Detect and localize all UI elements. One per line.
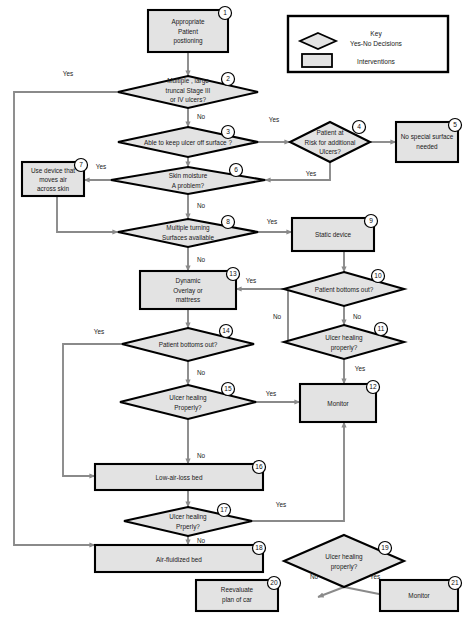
node-20-number: 20 [270,579,278,586]
node-2-multiple-large-truncal-ulcers[interactable]: Multiple , large truncal Stage III or IV… [118,73,258,109]
node-21-monitor[interactable]: Monitor 21 [380,577,462,612]
node-13-line-2: Overlay or [173,287,203,295]
node-1-line-3: postioning [173,37,203,45]
node-7-line-3: across skin [37,185,69,192]
node-16-line-1: Low-air-loss bed [156,474,203,481]
node-20-line-1: Reevaluate [221,586,254,593]
node-4-line-1: Patient at [316,129,343,136]
edge-label-19-no: No [310,573,319,580]
node-5-no-special-surface-needed[interactable]: No special surface needed 5 [396,119,462,163]
node-3-line-1: Able to keep ulcer off surface ? [144,139,232,147]
node-15-line-2: Properly? [174,404,202,412]
node-5-line-2: needed [416,143,438,150]
node-15-number: 15 [224,385,232,392]
node-6-line-2: A problem? [172,182,205,190]
edge-label-17-no: No [197,537,206,544]
node-10-patient-bottoms-out[interactable]: Patient bottoms out? 10 [284,270,404,307]
legend-intervention-label: Interventions [357,58,395,65]
node-2-line-3: or IV ulcers? [170,96,206,103]
node-12-number: 12 [369,383,377,390]
node-11-line-1: Ulcer healing [325,334,363,342]
node-13-line-3: mattress [176,296,201,303]
node-6-number: 6 [234,166,238,173]
node-4-line-2: Risk for additional [305,139,356,146]
node-7-line-2: moves air [39,176,68,183]
node-6-skin-moisture-a-problem[interactable]: Skin moisture A problem? 6 [111,164,265,195]
legend-key: Key Yes-No Decisions Interventions [288,16,448,72]
node-1-number: 1 [223,9,227,16]
node-17-ulcer-healing-properly[interactable]: Ulcer healing Prperly? 17 [124,504,252,537]
node-5-number: 5 [453,121,457,128]
node-20-reevaluate-plan-of-care[interactable]: Reevaluate plan of car 20 [196,577,281,612]
edge-label-11-no: No [273,313,282,320]
node-12-line-1: Monitor [327,400,349,407]
node-9-number: 9 [369,217,373,224]
node-19-line-2: properly? [331,563,358,571]
edge-label-4-yes: Yes [306,170,316,177]
edge-label-15-yes: Yes [266,390,276,397]
node-1-line-1: Appropriate [171,18,204,26]
node-21-line-1: Monitor [408,592,430,599]
legend-intervention-icon [302,54,332,67]
edge-label-10-yes: Yes [246,277,256,284]
node-14-number: 14 [222,327,230,334]
node-1-appropriate-patient-positioning[interactable]: Appropriate Patient postioning 1 [148,7,232,53]
edge-label-14-yes: Yes [94,328,104,335]
node-17-line-2: Prperly? [176,523,200,531]
flowchart-svg: Appropriate Patient postioning 1 Multipl… [0,0,464,622]
legend-decision-label: Yes-No Decisions [350,40,402,47]
node-18-air-fluidized-bed[interactable]: Air-fluidized bed 18 [95,542,266,573]
edge-label-6-no: No [197,202,206,209]
node-17-number: 17 [220,506,228,513]
node-10-line-1: Patient bottoms out? [315,286,374,293]
edge-label-8-yes: Yes [267,218,277,225]
node-7-line-1: Use device that [31,167,75,174]
node-2-number: 2 [226,75,230,82]
node-12-monitor[interactable]: Monitor 12 [300,381,380,423]
node-13-dynamic-overlay-or-mattress[interactable]: Dynamic Overlay or mattress 13 [140,268,240,310]
node-4-line-3: Ulcers? [319,148,341,155]
edge-label-15-no: No [197,452,206,459]
node-14-patient-bottoms-out[interactable]: Patient bottoms out? 14 [122,325,254,362]
node-3-number: 3 [226,128,230,135]
edge-label-10-no: No [353,313,362,320]
edge-label-14-no: No [197,369,206,376]
node-16-low-air-loss-bed[interactable]: Low-air-loss bed 16 [95,461,266,491]
edge-label-8-no: No [197,256,206,263]
node-19-line-1: Ulcer healing [325,553,363,561]
node-6-line-1: Skin moisture [169,172,208,179]
node-21-number: 21 [451,579,459,586]
node-4-patient-at-risk-for-additional-ulcers[interactable]: Patient at Risk for additional Ulcers? 4 [290,121,370,163]
edge-label-17-yes: Yes [276,501,286,508]
node-17-line-1: Ulcer healing [169,513,207,521]
node-13-line-1: Dynamic [176,277,202,285]
node-11-number: 11 [378,325,385,332]
node-8-line-2: Surfaces available [162,234,215,241]
edge-label-3-yes: Yes [269,116,279,123]
legend-title: Key [370,30,382,38]
node-11-ulcer-healing-properly[interactable]: Ulcer healing properly? 11 [284,323,404,360]
node-20-line-2: plan of car [222,596,253,604]
node-9-static-device[interactable]: Static device 9 [292,215,378,252]
node-1-line-2: Patient [178,28,198,35]
node-8-number: 8 [226,218,230,225]
node-3-able-to-keep-ulcer-off-surface[interactable]: Able to keep ulcer off surface ? 3 [118,126,258,158]
node-8-line-1: Multiple turning [166,224,210,232]
node-13-number: 13 [229,270,237,277]
node-11-line-2: properly? [331,344,358,352]
node-15-ulcer-healing-properly[interactable]: Ulcer healing Properly? 15 [120,383,256,420]
edge-label-2-yes: Yes [63,70,73,77]
flowchart-canvas: Appropriate Patient postioning 1 Multipl… [0,0,464,622]
nodes-layer: Appropriate Patient postioning 1 Multipl… [22,7,462,612]
node-15-line-1: Ulcer healing [169,394,207,402]
node-18-line-1: Air-fluidized bed [156,556,202,563]
node-9-line-1: Static device [315,231,352,238]
node-2-line-1: Multiple , large [167,77,209,85]
node-5-line-1: No special surface [401,133,454,141]
node-8-multiple-turning-surfaces-available[interactable]: Multiple turning Surfaces available 8 [118,216,258,248]
node-10-number: 10 [374,272,382,279]
node-16-number: 16 [255,463,263,470]
edge-label-19-yes: Yes [370,573,380,580]
node-7-use-device-moves-air-across-skin[interactable]: Use device that moves air across skin 7 [22,159,88,197]
node-7-number: 7 [79,161,83,168]
